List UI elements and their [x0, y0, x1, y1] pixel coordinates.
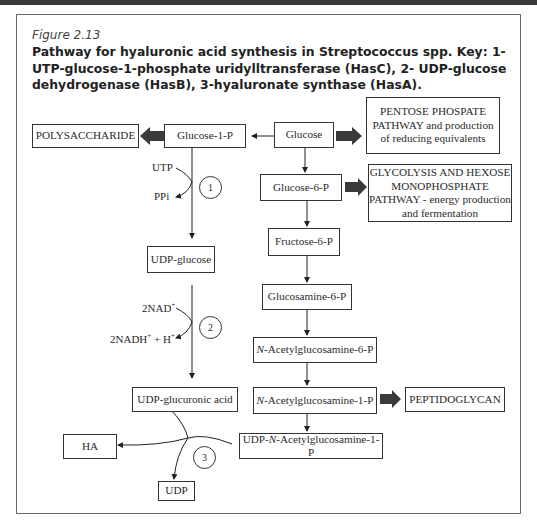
node-udp-n-acetylglucosamine-1-p: UDP-N-Acetylglucosamine-1-P	[239, 433, 383, 459]
node-glucose: Glucose	[274, 122, 334, 148]
curve-udpnacetyl-in	[188, 436, 232, 444]
node-udp-glucose: UDP-glucose	[147, 246, 215, 273]
thick-arrow-to-pentose	[336, 127, 362, 145]
node-udp-glucuronic-acid: UDP-glucuronic acid	[132, 387, 238, 412]
enzyme-step-1-hasc: 1	[199, 176, 222, 199]
node-glycolysis-hmp: GLYCOLYSIS AND HEXOSE MONOPHOSPHATE PATH…	[368, 164, 512, 222]
node-fructose-6-p: Fructose-6-P	[268, 228, 340, 256]
curve-utp-in	[176, 168, 192, 182]
thick-arrow-to-glycolysis	[345, 178, 367, 196]
node-glucose-1-p: Glucose-1-P	[164, 124, 246, 148]
curve-to-ha	[118, 438, 188, 445]
curve-udpglucuronic-in	[172, 411, 188, 438]
thick-arrow-to-peptidoglycan	[380, 390, 401, 408]
node-n-acetylglucosamine-1-p: N-Acetylglucosamine-1-P	[253, 387, 377, 414]
label-utp: UTP	[152, 161, 173, 173]
thick-arrow-to-polysaccharide	[140, 127, 164, 145]
enzyme-step-3-hasa: 3	[193, 446, 216, 469]
node-ha: HA	[63, 434, 117, 459]
curve-nadh-out	[176, 322, 192, 338]
node-glucosamine-6-p: Glucosamine-6-P	[262, 284, 352, 310]
node-glucose-6-p: Glucose-6-P	[260, 174, 342, 201]
node-udp: UDP	[158, 481, 195, 501]
node-peptidoglycan: PEPTIDOGLYCAN	[405, 387, 505, 412]
node-n-acetylglucosamine-6-p: N-Acetylglucosamine-6-P	[253, 337, 377, 363]
label-2nadh-h: 2NADH+ + H+	[110, 332, 175, 345]
label-ppi: PPi	[154, 190, 169, 202]
label-2nad: 2NAD+	[142, 301, 175, 314]
enzyme-step-2-hasb: 2	[199, 316, 222, 339]
curve-nad-in	[176, 308, 192, 322]
node-pentose-phosphate-pathway: PENTOSE PHOSPATE PATHWAY and production …	[366, 97, 500, 154]
node-polysaccharide: POLYSACCHARIDE	[32, 124, 139, 148]
curve-to-udp	[174, 438, 188, 479]
curve-ppi-out	[176, 182, 192, 197]
